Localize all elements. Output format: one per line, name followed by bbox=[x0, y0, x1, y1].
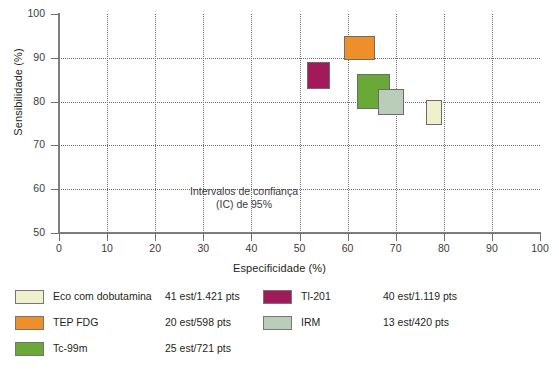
legend-label: Eco com dobutamina bbox=[53, 289, 152, 304]
data-box-tl-201 bbox=[307, 62, 330, 89]
legend-label: IRM bbox=[301, 315, 320, 330]
y-tick-mark bbox=[51, 14, 59, 15]
legend-stat: 13 est/420 pts bbox=[383, 315, 449, 330]
y-tick-mark bbox=[51, 233, 59, 234]
x-tick-label: 0 bbox=[44, 243, 74, 254]
x-tick-mark bbox=[203, 234, 204, 241]
y-tick-label: 50 bbox=[11, 227, 45, 238]
x-tick-mark bbox=[348, 234, 349, 241]
x-tick-mark bbox=[251, 234, 252, 241]
x-tick-label: 30 bbox=[188, 243, 218, 254]
gridline-vertical bbox=[444, 14, 445, 233]
legend-swatch bbox=[15, 316, 44, 330]
y-tick-label: 100 bbox=[11, 8, 45, 19]
x-tick-mark bbox=[107, 234, 108, 241]
plot-area: Intervalos de confiança (IC) de 95% bbox=[59, 14, 540, 233]
x-tick-label: 10 bbox=[92, 243, 122, 254]
data-box-eco-com-dobutamina bbox=[426, 100, 442, 125]
x-tick-mark bbox=[59, 234, 60, 241]
x-tick-mark bbox=[300, 234, 301, 241]
legend-stat: 40 est/1.119 pts bbox=[383, 289, 457, 304]
x-tick-mark bbox=[155, 234, 156, 241]
x-tick-label: 40 bbox=[236, 243, 266, 254]
x-tick-label: 90 bbox=[477, 243, 507, 254]
gridline-horizontal bbox=[59, 233, 540, 234]
scatter-chart-figure: 5060708090100 0102030405060708090100 Int… bbox=[0, 0, 559, 373]
x-tick-mark bbox=[492, 234, 493, 241]
legend-stat: 41 est/1.421 pts bbox=[165, 289, 240, 304]
x-axis-title: Especificidade (%) bbox=[0, 262, 559, 274]
x-tick-label: 70 bbox=[381, 243, 411, 254]
legend-swatch bbox=[15, 290, 44, 304]
annotation-line-2: (IC) de 95% bbox=[159, 198, 329, 211]
legend-swatch bbox=[15, 342, 44, 356]
gridline-vertical bbox=[492, 14, 493, 233]
y-tick-mark bbox=[51, 189, 59, 190]
x-tick-label: 60 bbox=[333, 243, 363, 254]
y-axis-title: Sensibilidade (%) bbox=[12, 22, 24, 162]
gridline-vertical bbox=[155, 14, 156, 233]
y-tick-label: 60 bbox=[11, 183, 45, 194]
legend-label: TEP FDG bbox=[53, 315, 98, 330]
x-tick-label: 80 bbox=[429, 243, 459, 254]
gridline-vertical bbox=[396, 14, 397, 233]
legend-swatch bbox=[263, 290, 292, 304]
x-tick-mark bbox=[540, 234, 541, 241]
x-tick-mark bbox=[444, 234, 445, 241]
gridline-vertical bbox=[107, 14, 108, 233]
legend-stat: 20 est/598 pts bbox=[165, 315, 231, 330]
legend: Eco com dobutamina41 est/1.421 ptsTEP FD… bbox=[0, 288, 559, 373]
data-box-irm bbox=[378, 89, 404, 115]
legend-swatch bbox=[263, 316, 292, 330]
y-tick-mark bbox=[51, 58, 59, 59]
y-tick-mark bbox=[51, 145, 59, 146]
data-box-tep-fdg bbox=[344, 36, 375, 60]
legend-stat: 25 est/721 pts bbox=[165, 341, 231, 356]
legend-label: Tc-99m bbox=[53, 341, 87, 356]
legend-label: Tl-201 bbox=[301, 289, 331, 304]
x-tick-mark bbox=[396, 234, 397, 241]
x-tick-label: 100 bbox=[525, 243, 555, 254]
x-tick-label: 20 bbox=[140, 243, 170, 254]
annotation-line-1: Intervalos de confiança bbox=[159, 185, 329, 198]
y-tick-mark bbox=[51, 102, 59, 103]
confidence-interval-annotation: Intervalos de confiança (IC) de 95% bbox=[159, 185, 329, 211]
x-tick-label: 50 bbox=[285, 243, 315, 254]
